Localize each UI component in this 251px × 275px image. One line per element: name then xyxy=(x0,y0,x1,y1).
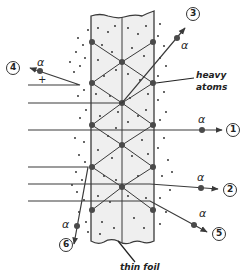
path-4-number: 4 xyxy=(10,63,16,72)
path-6 xyxy=(28,167,88,244)
path-5-number: 5 xyxy=(216,229,222,238)
rutherford-scattering-diagram xyxy=(0,0,251,275)
alpha-label-4: α xyxy=(37,57,44,68)
thin-foil-label: thin foil xyxy=(120,263,160,272)
path-4 xyxy=(28,68,80,85)
path-3-number: 3 xyxy=(190,9,196,18)
alpha-label-3: α xyxy=(181,40,188,51)
plus-label: + xyxy=(38,75,46,85)
path-6-number: 6 xyxy=(63,240,69,249)
alpha-label-6: α xyxy=(62,219,69,230)
heavy-atoms-label-line1: heavy xyxy=(196,71,226,80)
alpha-label-2: α xyxy=(197,172,204,183)
alpha-label-5: α xyxy=(199,208,206,219)
path-2-number: 2 xyxy=(227,185,233,194)
alpha-label-1: α xyxy=(198,114,205,125)
heavy-atoms-label-line2: atoms xyxy=(196,83,227,92)
heavy-atoms-pointer xyxy=(156,78,194,83)
path-1-number: 1 xyxy=(230,125,236,134)
thin-foil xyxy=(91,11,154,244)
